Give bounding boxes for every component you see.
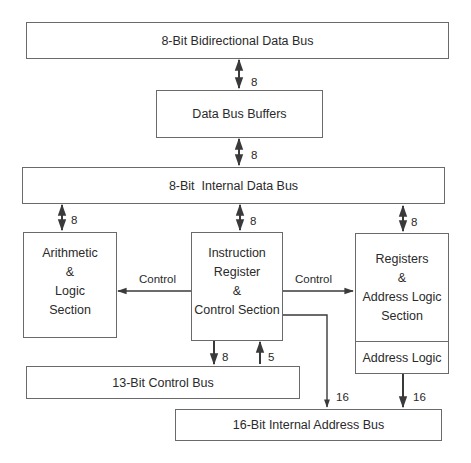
control-line-4: Control Section (194, 301, 279, 320)
internal-data-bus-label: 8-Bit Internal Data Bus (169, 179, 298, 193)
label-internal-alu-width: 8 (71, 214, 77, 226)
alu-line-3: Logic (55, 282, 85, 301)
bidirectional-data-bus-label: 8-Bit Bidirectional Data Bus (161, 34, 313, 48)
control-bus: 13-Bit Control Bus (26, 366, 300, 399)
internal-data-bus: 8-Bit Internal Data Bus (22, 167, 445, 204)
alu-line-4: Section (49, 301, 91, 320)
data-bus-buffers: Data Bus Buffers (156, 90, 323, 138)
control-line-2: Register (214, 263, 261, 282)
control-line-3: & (233, 282, 241, 301)
label-internal-registers-width: 8 (411, 216, 417, 228)
address-logic-label: Address Logic (362, 351, 441, 365)
label-buffers-internal-width: 8 (251, 149, 257, 161)
label-control-address-width: 16 (336, 391, 349, 403)
registers-line-1: Registers (376, 250, 429, 269)
label-address-logic-width: 16 (413, 391, 426, 403)
label-control-bus-in-width: 5 (268, 351, 274, 363)
alu-line-1: Arithmetic (42, 244, 98, 263)
control-line-1: Instruction (208, 244, 266, 263)
label-internal-control-width: 8 (250, 215, 256, 227)
alu-line-2: & (66, 263, 74, 282)
label-control-to-alu: Control (139, 273, 176, 285)
bidirectional-data-bus: 8-Bit Bidirectional Data Bus (26, 22, 449, 59)
control-bus-label: 13-Bit Control Bus (112, 376, 213, 390)
label-control-to-registers: Control (295, 273, 332, 285)
registers-text: Registers & Address Logic Section (356, 234, 448, 341)
instruction-register-control-section: Instruction Register & Control Section (191, 232, 283, 341)
alu-section: Arithmetic & Logic Section (23, 232, 117, 338)
internal-address-bus-label: 16-Bit Internal Address Bus (233, 418, 384, 432)
label-ext-buffers-width: 8 (251, 76, 257, 88)
address-logic: Address Logic (356, 342, 448, 373)
registers-line-2: & (398, 269, 406, 288)
label-control-bus-out-width: 8 (222, 351, 228, 363)
registers-line-3: Address Logic (362, 288, 441, 307)
internal-address-bus: 16-Bit Internal Address Bus (175, 409, 442, 441)
registers-line-4: Section (381, 307, 423, 326)
registers-address-logic-section: Registers & Address Logic Section Addres… (355, 233, 449, 374)
data-bus-buffers-label: Data Bus Buffers (192, 107, 286, 121)
